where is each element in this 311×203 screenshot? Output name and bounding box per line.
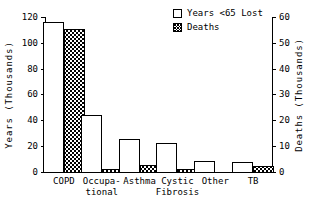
left-tick-label-60: 60 (27, 89, 38, 99)
x-axis-category-label-2: Asthma (123, 176, 156, 186)
right-tick-label-20: 20 (279, 115, 290, 125)
x-axis-category-label-0: COPD (53, 176, 75, 186)
right-tick-label-60: 60 (279, 12, 290, 22)
right-tick-label-0: 0 (279, 167, 284, 177)
left-tick-label-80: 80 (27, 64, 38, 74)
x-axis-category-label-4: Other (202, 176, 230, 186)
left-tick-label-0: 0 (33, 167, 38, 177)
bar-years-lost-3 (157, 144, 177, 172)
bar-years-lost-2 (119, 140, 139, 172)
x-axis-category-label-1: Occupa-tional (83, 176, 121, 197)
left-tick-label-100: 100 (22, 38, 38, 48)
left-tick-label-40: 40 (27, 115, 38, 125)
bar-years-lost-0 (43, 22, 63, 172)
legend-item-label-0: Years <65 Lost (187, 8, 263, 18)
left-axis-title: Years (Thousands) (4, 41, 14, 148)
bar-years-lost-4 (195, 162, 215, 172)
bar-deaths-5 (254, 167, 274, 172)
checker-square-swatch (173, 23, 181, 31)
chart-container: Years <65 Lost Deaths 0 20 40 60 80 100 … (0, 0, 311, 203)
right-tick-label-10: 10 (279, 141, 290, 151)
bar-years-lost-5 (233, 163, 253, 172)
left-tick-label-120: 120 (22, 12, 38, 22)
left-tick-label-20: 20 (27, 141, 38, 151)
bar-chart: Years <65 Lost Deaths 0 20 40 60 80 100 … (0, 0, 311, 203)
x-axis-category-label-5: TB (248, 176, 259, 186)
x-axis-category-label-3: CysticFibrosis (156, 176, 199, 197)
right-tick-label-50: 50 (279, 38, 290, 48)
open-square-swatch (173, 9, 181, 17)
right-axis-title: Deaths (Thousands) (294, 38, 304, 152)
right-tick-label-30: 30 (279, 89, 290, 99)
legend-item-label-1: Deaths (187, 22, 220, 32)
bar-years-lost-1 (81, 115, 101, 172)
right-tick-label-40: 40 (279, 64, 290, 74)
